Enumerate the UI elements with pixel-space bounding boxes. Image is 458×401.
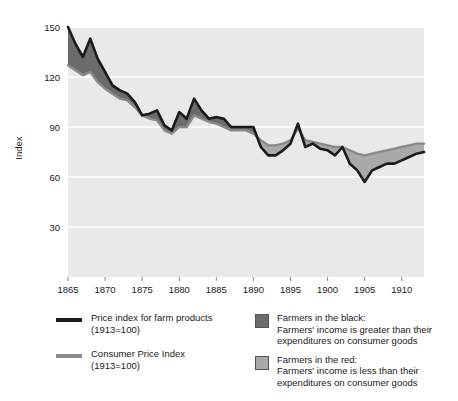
line-swatch-gray-icon: [56, 354, 82, 358]
x-tick-label: 1910: [391, 284, 412, 295]
y-tick-label: 150: [44, 22, 60, 33]
y-tick-label: 60: [49, 172, 60, 183]
legend-item-label: Price index for farm products (1913=100): [91, 312, 212, 335]
chart-figure: 1865187018751880188518901895190019051910…: [0, 0, 458, 401]
chart-legend: Price index for farm products (1913=100)…: [0, 312, 458, 401]
x-tick-label: 1870: [95, 284, 116, 295]
legend-line-series: Price index for farm products (1913=100)…: [56, 312, 256, 384]
x-tick-label: 1895: [280, 284, 301, 295]
x-tick-label: 1865: [57, 284, 78, 295]
x-tick-label: 1890: [243, 284, 264, 295]
legend-item-farm-price-index: Price index for farm products (1913=100): [56, 312, 256, 335]
legend-item-farmers-in-the-red: Farmers in the red: Farmers' income is l…: [255, 354, 455, 389]
x-axis-ticks: 1865187018751880188518901895190019051910: [57, 277, 412, 295]
y-tick-label: 30: [49, 222, 60, 233]
legend-line-1: Consumer Price Index: [91, 348, 185, 360]
x-tick-label: 1885: [206, 284, 227, 295]
legend-line-2: (1913=100): [91, 360, 185, 372]
legend-line-2: Farmers' income is less than their: [277, 365, 419, 377]
legend-line-1: Farmers in the black:: [277, 312, 432, 324]
square-swatch-light-icon: [255, 356, 269, 370]
legend-item-consumer-price-index: Consumer Price Index (1913=100): [56, 348, 256, 371]
line-swatch-black-icon: [56, 318, 82, 322]
y-axis-label: Index: [13, 136, 24, 159]
legend-line-2: Farmers' income is greater than their: [277, 324, 432, 336]
legend-line-1: Price index for farm products: [91, 312, 212, 324]
y-axis-ticks: 150120906030: [44, 22, 60, 233]
x-tick-label: 1875: [132, 284, 153, 295]
legend-item-label: Farmers in the red: Farmers' income is l…: [277, 354, 419, 389]
legend-item-label: Farmers in the black: Farmers' income is…: [277, 312, 432, 347]
legend-fill-regions: Farmers in the black: Farmers' income is…: [255, 312, 455, 396]
x-tick-label: 1880: [169, 284, 190, 295]
plot-background: [68, 27, 424, 277]
x-tick-label: 1900: [317, 284, 338, 295]
legend-line-3: expenditures on consumer goods: [277, 335, 432, 347]
square-swatch-dark-icon: [255, 314, 269, 328]
legend-item-farmers-in-the-black: Farmers in the black: Farmers' income is…: [255, 312, 455, 347]
legend-item-label: Consumer Price Index (1913=100): [91, 348, 185, 371]
legend-line-1: Farmers in the red:: [277, 354, 419, 366]
legend-line-3: expenditures on consumer goods: [277, 377, 419, 389]
y-tick-label: 120: [44, 72, 60, 83]
y-tick-label: 90: [49, 122, 60, 133]
legend-line-2: (1913=100): [91, 324, 212, 336]
x-tick-label: 1905: [354, 284, 375, 295]
